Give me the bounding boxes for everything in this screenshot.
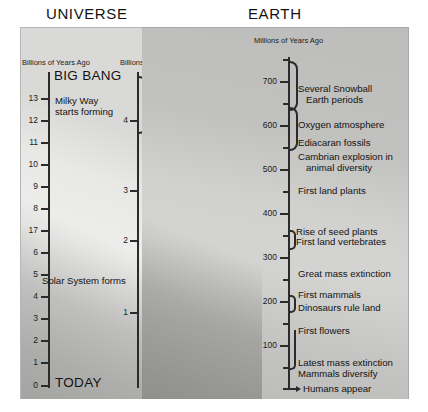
tick-4 (41, 296, 50, 298)
event-first-mammals: First mammals (298, 289, 361, 300)
ticklabel-8: 8 (16, 203, 38, 213)
tick-2ga (130, 240, 139, 242)
ticklabel-3: 3 (16, 313, 38, 323)
tick-650ma (283, 103, 289, 105)
ticklabel-12: 12 (16, 115, 38, 125)
event-cambrian-explosion: Cambrian explosion in animal diversity (298, 151, 393, 173)
tick-0 (41, 385, 50, 387)
panel-title-earth: EARTH (248, 5, 302, 22)
brace-mammals-dinosaurs (290, 295, 296, 313)
humans-arrow-icon (296, 386, 301, 392)
tick-400ma (280, 213, 289, 215)
tick-550ma (283, 147, 289, 149)
tick-12 (41, 120, 50, 122)
ticklabel-10: 10 (16, 159, 38, 169)
event-great-mass-extinction: Great mass extinction (298, 268, 391, 279)
tick-700ma (280, 81, 289, 83)
tick-250ma (283, 279, 289, 281)
tick-300ma (280, 257, 289, 259)
axis-unit-earth: Millions of Years Ago (254, 36, 323, 45)
ticklabel-4ga: 4 (108, 115, 128, 125)
ticklabel-200ma: 200 (252, 296, 277, 306)
tick-10 (41, 164, 50, 166)
tick-750ma (283, 59, 289, 61)
gradient-wedge-dark-earth (142, 206, 262, 399)
tick-4ga (130, 120, 139, 122)
tick-3ga (130, 190, 139, 192)
tick-3 (41, 318, 50, 320)
event-mammals-diversify: Mammals diversify (298, 368, 377, 379)
ticklabel-0: 0 (16, 380, 38, 390)
event-solar-system: Solar System forms (42, 275, 126, 286)
ticklabel-2ga: 2 (108, 235, 128, 245)
ticklabel-4: 4 (16, 291, 38, 301)
tick-200ma (280, 301, 289, 303)
tick-8 (41, 208, 50, 210)
event-big-bang: BIG BANG (54, 68, 122, 83)
event-snowball-earth-periods: Several Snowball Earth periods (298, 83, 372, 105)
event-latest-mass-extinction: Latest mass extinction (298, 357, 393, 368)
event-humans-appear: Humans appear (303, 383, 371, 394)
tick-1 (41, 362, 50, 364)
ticklabel-1ga: 1 (108, 307, 128, 317)
ticklabel-3ga: 3 (108, 185, 128, 195)
event-today: TODAY (55, 375, 102, 390)
event-first-land-plants: First land plants (298, 185, 366, 196)
tick-6 (41, 252, 50, 254)
event-oxygen-atmosphere: Oxygen atmosphere (298, 119, 384, 130)
ticklabel-13: 13 (16, 93, 38, 103)
event-dinosaurs-rule-land: Dinosaurs rule land (298, 302, 381, 313)
tick-150ma (283, 323, 289, 325)
ticklabel-2: 2 (16, 335, 38, 345)
ticklabel-9: 9 (16, 181, 38, 191)
axis-unit-universe-1: Billions of Years Ago (22, 58, 90, 67)
ticklabel-6: 6 (16, 247, 38, 257)
tick-350ma (283, 235, 289, 237)
gradient-wedge-dark (21, 178, 143, 399)
brace-snowball-earth (290, 61, 298, 111)
tick-11 (41, 142, 50, 144)
ticklabel-100ma: 100 (252, 340, 277, 350)
tick-7 (41, 230, 50, 232)
tick-50ma (283, 367, 289, 369)
tick-1ga (130, 312, 139, 314)
ticklabel-1: 1 (16, 357, 38, 367)
brace-oxygen-ediacaran (290, 107, 298, 151)
tick-450ma (283, 191, 289, 193)
tick-2 (41, 340, 50, 342)
ticklabel-11: 11 (16, 137, 38, 147)
ticklabel-5: 5 (16, 269, 38, 279)
panel-title-universe: UNIVERSE (46, 5, 128, 22)
tick-9 (41, 186, 50, 188)
tick-100ma (280, 345, 289, 347)
tick-500ma (280, 169, 289, 171)
ticklabel-300ma: 300 (252, 252, 277, 262)
event-first-flowers: First flowers (298, 325, 350, 336)
brace-latest-extinction (290, 330, 296, 370)
ticklabel-600ma: 600 (252, 120, 277, 130)
event-milky-way: Milky Way starts forming (55, 95, 113, 117)
ticklabel-500ma: 500 (252, 164, 277, 174)
tick-13 (41, 98, 50, 100)
event-ediacaran-fossils: Ediacaran fossils (298, 137, 371, 148)
gradient-wedge-light (21, 28, 143, 399)
ticklabel-700ma: 700 (252, 76, 277, 86)
ticklabel-400ma: 400 (252, 208, 277, 218)
event-first-land-vertebrates: First land vertebrates (296, 236, 386, 247)
tick-600ma (280, 125, 289, 127)
timeline-diagram: UNIVERSE EARTH Billions of Years Ago 13 … (0, 0, 428, 412)
ticklabel-7: 17 (14, 225, 38, 235)
